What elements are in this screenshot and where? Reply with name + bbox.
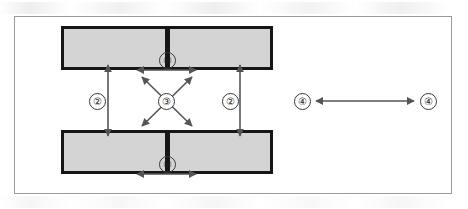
- callout-4-right: ④: [420, 93, 437, 110]
- callout-2-left: ②: [89, 93, 106, 110]
- diagram-canvas: ① ① ② ② ③ ④ ④: [0, 0, 468, 209]
- callout-3-center: ③: [158, 93, 175, 110]
- scan-artifact-bottom: [0, 196, 468, 208]
- scan-artifact-top: [0, 2, 468, 14]
- callout-1-upper-gap: ①: [159, 52, 176, 69]
- callout-1-lower-gap: ①: [159, 156, 176, 173]
- callout-4-left: ④: [294, 93, 311, 110]
- callout-2-right: ②: [222, 93, 239, 110]
